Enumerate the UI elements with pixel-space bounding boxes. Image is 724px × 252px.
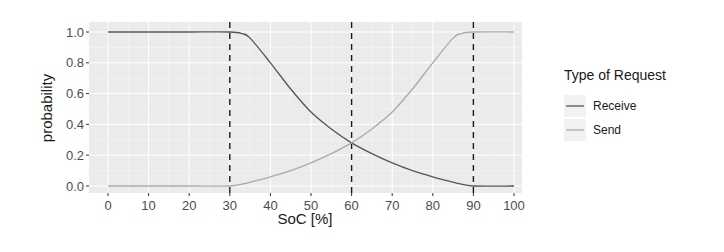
y-axis: 0.00.20.40.60.81.0	[66, 25, 89, 194]
x-tick-label: 20	[182, 198, 196, 213]
legend: Type of Request ReceiveSend	[564, 67, 666, 141]
x-tick-label: 80	[426, 198, 440, 213]
x-tick-label: 60	[344, 198, 358, 213]
legend-label-receive: Receive	[593, 99, 637, 113]
x-tick-label: 100	[503, 198, 525, 213]
x-tick-label: 0	[104, 198, 111, 213]
y-tick-label: 0.8	[66, 55, 84, 70]
y-tick-label: 0.4	[66, 117, 84, 132]
legend-label-send: Send	[593, 123, 621, 137]
x-tick-label: 90	[466, 198, 480, 213]
x-tick-label: 30	[223, 198, 237, 213]
y-tick-label: 0.0	[66, 179, 84, 194]
x-axis-title: SoC [%]	[277, 210, 332, 227]
y-tick-label: 1.0	[66, 25, 84, 40]
x-tick-label: 40	[263, 198, 277, 213]
y-axis-title: probability	[38, 73, 55, 142]
y-tick-label: 0.2	[66, 148, 84, 163]
y-tick-label: 0.6	[66, 86, 84, 101]
x-tick-label: 70	[385, 198, 399, 213]
chart: 0.00.20.40.60.81.0 010203040506070809010…	[0, 0, 724, 252]
x-tick-label: 10	[141, 198, 155, 213]
legend-title: Type of Request	[564, 67, 666, 83]
